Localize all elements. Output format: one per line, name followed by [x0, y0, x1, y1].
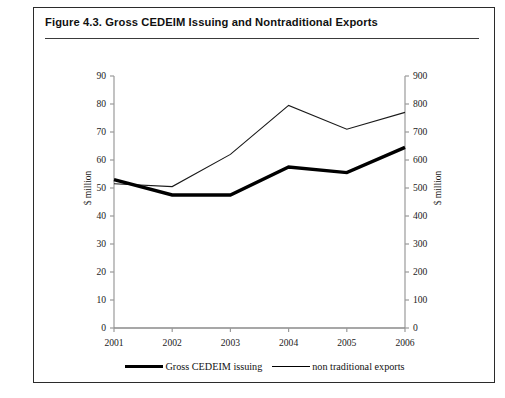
y-axis-left-tick-label: 0	[72, 322, 106, 333]
y-axis-left-tick-label: 20	[72, 266, 106, 277]
series-line-non-traditional-exports	[114, 105, 405, 186]
x-axis-tick-label: 2005	[324, 337, 370, 348]
x-axis-tick-label: 2002	[149, 337, 195, 348]
y-axis-left-tick-label: 70	[72, 126, 106, 137]
legend-item: non traditional exports	[272, 360, 404, 372]
legend-label: non traditional exports	[312, 361, 404, 372]
chart-legend: Gross CEDEIM issuingnon traditional expo…	[34, 360, 496, 372]
legend-item: Gross CEDEIM issuing	[125, 360, 262, 372]
series-line-gross-cedeim-issuing	[114, 147, 405, 195]
y-axis-right-tick-label: 300	[413, 238, 447, 249]
y-axis-left-tick-label: 80	[72, 98, 106, 109]
y-axis-left-title: $ million	[83, 158, 93, 218]
x-axis-tick-label: 2004	[266, 337, 312, 348]
x-axis-tick-label: 2006	[382, 337, 428, 348]
y-axis-right-tick-label: 100	[413, 294, 447, 305]
chart-axes	[114, 76, 405, 328]
y-axis-right-tick-label: 900	[413, 70, 447, 81]
chart-plot-area: 0102030405060708090 01002003004005006007…	[34, 8, 496, 384]
x-axis-tick-label: 2001	[91, 337, 137, 348]
figure-panel: Figure 4.3. Gross CEDEIM Issuing and Non…	[33, 7, 495, 383]
y-axis-left-tick-label: 10	[72, 294, 106, 305]
legend-label: Gross CEDEIM issuing	[165, 361, 262, 372]
y-axis-right-tick-label: 200	[413, 266, 447, 277]
y-axis-left-tick-label: 30	[72, 238, 106, 249]
legend-line-swatch	[125, 365, 163, 368]
y-axis-right-tick-label: 800	[413, 98, 447, 109]
y-axis-right-tick-label: 700	[413, 126, 447, 137]
legend-line-swatch	[272, 366, 310, 367]
x-axis-tick-label: 2003	[207, 337, 253, 348]
y-axis-right-title: $ million	[433, 158, 443, 218]
y-axis-right-tick-label: 0	[413, 322, 447, 333]
y-axis-left-tick-label: 90	[72, 70, 106, 81]
